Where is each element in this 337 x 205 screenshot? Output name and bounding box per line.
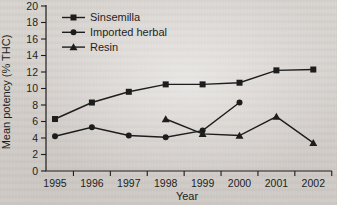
circle-icon xyxy=(71,29,77,35)
x-tick-label: 1997 xyxy=(117,177,141,189)
x-axis-title: Year xyxy=(176,190,199,202)
y-tick-label: 12 xyxy=(26,66,38,78)
square-marker xyxy=(163,81,169,87)
square-marker xyxy=(200,81,206,87)
legend-item-resin: Resin xyxy=(62,41,118,53)
y-tick-label: 16 xyxy=(26,33,38,45)
circle-marker xyxy=(52,133,58,139)
legend: SinsemillaImported herbalResin xyxy=(62,11,167,53)
series-line xyxy=(55,103,240,138)
series-layer xyxy=(52,67,317,147)
circle-marker xyxy=(163,134,169,140)
y-tick-label: 0 xyxy=(32,165,38,177)
x-tick-label: 2001 xyxy=(265,177,289,189)
circle-marker xyxy=(237,100,243,106)
x-tick-label: 1995 xyxy=(43,177,67,189)
legend-item-imported-herbal: Imported herbal xyxy=(62,26,167,38)
axes: 0246810121416182019951996199719981999200… xyxy=(26,0,332,189)
axis-spines xyxy=(46,5,332,171)
circle-marker xyxy=(89,124,95,130)
square-marker xyxy=(310,67,316,73)
legend-label: Resin xyxy=(90,41,118,53)
x-tick-label: 1999 xyxy=(191,177,215,189)
square-marker xyxy=(52,116,58,122)
y-tick-label: 4 xyxy=(32,132,38,144)
legend-label: Sinsemilla xyxy=(90,11,141,23)
x-tick-label: 2002 xyxy=(302,177,326,189)
x-tick-label: 1998 xyxy=(154,177,178,189)
y-tick-label: 6 xyxy=(32,115,38,127)
triangle-marker xyxy=(162,115,170,122)
y-tick-label: 18 xyxy=(26,16,38,28)
legend-label: Imported herbal xyxy=(90,26,167,38)
y-tick-label: 10 xyxy=(26,82,38,94)
square-marker xyxy=(273,67,279,73)
circle-marker xyxy=(126,133,132,139)
triangle-marker xyxy=(272,113,280,120)
series-resin xyxy=(162,113,318,146)
y-axis-title: Mean potency (% THC) xyxy=(0,35,12,150)
square-marker xyxy=(126,89,132,95)
series-line xyxy=(166,117,314,143)
series-line xyxy=(55,70,313,120)
x-tick-label: 1996 xyxy=(80,177,104,189)
scanned-chart-page: 0246810121416182019951996199719981999200… xyxy=(0,0,337,205)
y-tick-label: 2 xyxy=(32,148,38,160)
x-tick-label: 2000 xyxy=(228,177,252,189)
y-tick-label: 14 xyxy=(26,49,38,61)
y-tick-label: 8 xyxy=(32,99,38,111)
square-marker xyxy=(89,100,95,106)
square-icon xyxy=(71,15,77,21)
y-tick-label: 20 xyxy=(26,0,38,12)
square-marker xyxy=(237,80,243,86)
legend-item-sinsemilla: Sinsemilla xyxy=(62,11,141,23)
thc-potency-line-chart: 0246810121416182019951996199719981999200… xyxy=(0,0,337,205)
